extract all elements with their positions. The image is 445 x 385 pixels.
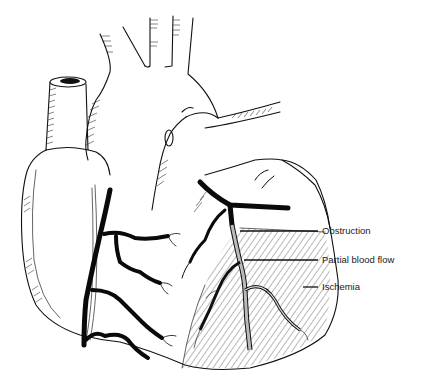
great-vessels	[86, 16, 280, 210]
label-obstruction: Obstruction	[322, 225, 371, 236]
label-ischemia: Ischemia	[322, 281, 360, 292]
heart-illustration	[0, 0, 445, 385]
ischemia-region	[180, 225, 330, 375]
vena-cava	[46, 77, 88, 150]
label-partial-blood-flow: Partial blood flow	[322, 254, 394, 265]
